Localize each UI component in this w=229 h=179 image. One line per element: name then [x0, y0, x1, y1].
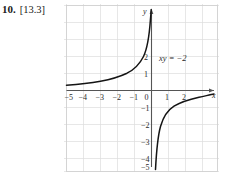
- y-tick--5: −5: [141, 163, 150, 172]
- problem-section-reference: [13.3]: [20, 4, 45, 15]
- y-tick--2: −2: [141, 121, 150, 130]
- y-tick-labels: 2 1 −1 −2 −3 −4 −5: [141, 53, 150, 173]
- hyperbola-plot: x y −5 −4 −3 −2 −1 0 1 2 2 1 −1 −2 −3 −4…: [64, 4, 219, 172]
- x-tick-labels: −5 −4 −3 −2 −1 0 1 2: [65, 93, 187, 102]
- x-tick-0: 0: [145, 93, 149, 102]
- problem-number: 10.: [2, 3, 16, 15]
- x-tick--3: −3: [96, 93, 105, 102]
- y-axis-label: y: [142, 7, 147, 16]
- y-tick--3: −3: [141, 138, 150, 147]
- x-tick--1: −1: [130, 93, 139, 102]
- graph-figure: x y −5 −4 −3 −2 −1 0 1 2 2 1 −1 −2 −3 −4…: [64, 4, 219, 172]
- x-tick--5: −5: [65, 93, 74, 102]
- plot-frame: [67, 6, 218, 172]
- x-tick--2: −2: [113, 93, 122, 102]
- y-tick-1: 1: [144, 70, 148, 79]
- x-tick-1: 1: [165, 93, 169, 102]
- x-axis-label: x: [211, 91, 216, 100]
- y-tick--1: −1: [141, 104, 150, 113]
- x-tick--4: −4: [79, 93, 88, 102]
- problem-label: 10. [13.3]: [2, 3, 45, 15]
- equation-annotation: xy = −2: [158, 53, 187, 63]
- grid-lines: [64, 4, 219, 172]
